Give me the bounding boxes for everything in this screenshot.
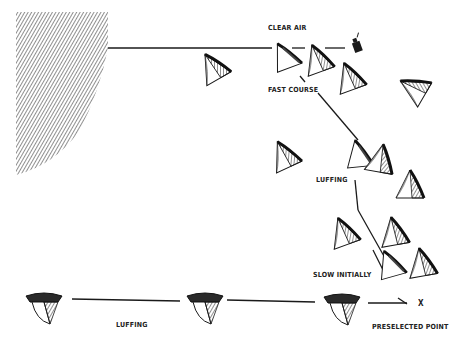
sailing-tactics-diagram: CLEAR AIR FAST COURSE LUFFING SLOW INITI… — [0, 0, 453, 342]
label-clear-air: CLEAR AIR — [268, 24, 307, 32]
diagram-canvas — [0, 0, 453, 342]
label-fast-course: FAST COURSE — [268, 86, 318, 94]
label-preselected-point: PRESELECTED POINT — [372, 323, 449, 331]
committee-boat-icon — [349, 33, 365, 53]
preselected-point-x-marker: X — [418, 299, 424, 308]
label-slow-initially: SLOW INITIALLY — [313, 271, 371, 279]
label-luffing-upper: LUFFING — [316, 176, 348, 184]
wind-shadow-region — [16, 12, 108, 175]
label-luffing-lower: LUFFING — [116, 321, 148, 329]
